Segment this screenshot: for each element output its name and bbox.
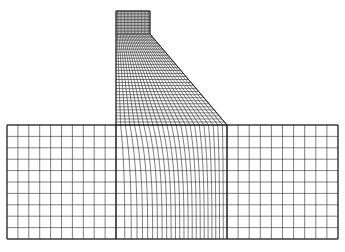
dam-body-mesh [116, 34, 227, 125]
foundation-middle-block [116, 125, 227, 239]
fe-mesh-drawing [0, 0, 345, 252]
dam-crest-mesh [116, 11, 150, 34]
foundation-left-block [7, 125, 116, 239]
foundation-right-block [227, 125, 338, 239]
mesh-figure [0, 0, 345, 252]
